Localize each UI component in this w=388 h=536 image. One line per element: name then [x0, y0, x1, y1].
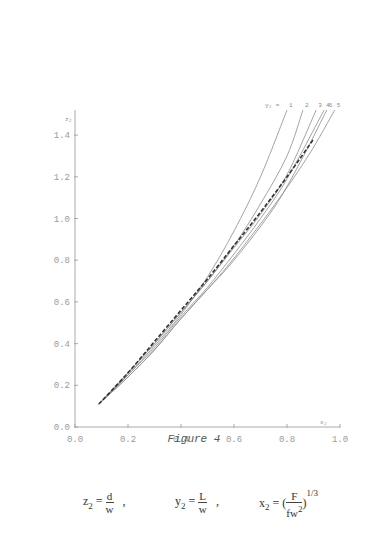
- y-axis-label: z₂: [65, 116, 72, 123]
- curves: [99, 110, 335, 404]
- series-label-1: 1: [289, 102, 293, 109]
- formula-definitions: z2 = dw , y2 = Lw , x2 = (Ffw2)1/3: [83, 490, 353, 530]
- series-label-2: 2: [305, 102, 309, 109]
- y-tick-label: 1.2: [54, 173, 70, 183]
- curve-3: [99, 110, 316, 404]
- x-axis-label: x₂: [320, 419, 327, 426]
- y-tick-label: 0.6: [54, 298, 70, 308]
- curve-2: [99, 110, 303, 404]
- curve-reference: [99, 139, 314, 404]
- x2-definition: x2 = (Ffw2)1/3: [259, 490, 318, 519]
- y-tick-label: 1.0: [54, 215, 70, 225]
- curve-4: [99, 110, 324, 404]
- curve-1: [99, 110, 287, 404]
- series-labels: 123465y₂ =: [265, 102, 341, 109]
- y-tick-label: 0.8: [54, 256, 70, 266]
- y2-definition: y2 = Lw ,: [175, 490, 219, 515]
- y-tick-label: 0.4: [54, 340, 70, 350]
- series-label-6: 6: [329, 102, 333, 109]
- figure-caption: Figure 4: [0, 433, 388, 445]
- series-label-3: 3: [318, 102, 322, 109]
- y-tick-label: 0.2: [54, 381, 70, 391]
- z2-definition: z2 = dw ,: [83, 490, 126, 515]
- chart: 0.00.20.40.60.81.00.00.20.40.60.81.01.21…: [0, 0, 388, 470]
- legend-prefix: y₂ =: [265, 102, 280, 109]
- y-tick-label: 0.0: [54, 423, 70, 433]
- series-label-5: 5: [337, 102, 341, 109]
- curve-5: [99, 110, 335, 404]
- y-tick-label: 1.4: [54, 131, 70, 141]
- axes: 0.00.20.40.60.81.00.00.20.40.60.81.01.21…: [54, 110, 348, 445]
- curve-6: [99, 110, 327, 404]
